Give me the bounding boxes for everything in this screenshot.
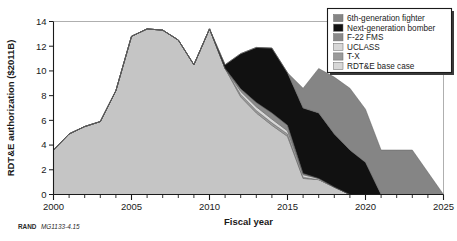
legend-swatch [334, 53, 344, 60]
legend-swatch [334, 24, 344, 31]
y-axis-title: RDT&E authorization ($2011B) [5, 40, 16, 177]
figure-container: 02468101214200020052010201520202025Fisca… [0, 0, 457, 241]
y-tick-label: 8 [41, 90, 46, 101]
x-axis-labels: 200020052010201520202025 [43, 201, 454, 212]
y-axis-ticks: 02468101214 [36, 16, 54, 200]
legend-label: F-22 FMS [347, 33, 384, 42]
credit-label: RAND [18, 223, 37, 230]
x-tick-label: 2010 [199, 201, 220, 212]
legend-swatch [334, 15, 344, 22]
x-tick-label: 2015 [277, 201, 298, 212]
credit-id: MG1133-4.15 [41, 223, 80, 230]
y-tick-label: 6 [41, 115, 46, 126]
x-tick-label: 2000 [43, 201, 64, 212]
legend-label: UCLASS [347, 43, 380, 52]
y-tick-label: 0 [41, 189, 46, 200]
legend-label: RDT&E base case [347, 62, 415, 71]
x-tick-label: 2025 [433, 201, 454, 212]
x-axis-minor-ticks [54, 195, 444, 201]
legend-swatch [334, 43, 344, 50]
legend-label: Next-generation bomber [347, 24, 436, 33]
stacked-area-chart: 02468101214200020052010201520202025Fisca… [0, 0, 457, 241]
y-tick-label: 10 [36, 65, 47, 76]
legend-label: T-X [347, 52, 360, 61]
y-tick-label: 4 [41, 139, 46, 150]
y-tick-label: 14 [36, 16, 47, 27]
x-tick-label: 2020 [355, 201, 376, 212]
legend-swatch [334, 63, 344, 70]
figure-credit: RANDMG1133-4.15 [18, 223, 80, 230]
legend-swatch [334, 34, 344, 41]
legend-label: 6th-generation fighter [347, 14, 425, 23]
y-tick-label: 12 [36, 41, 47, 52]
x-tick-label: 2005 [121, 201, 142, 212]
y-tick-label: 2 [41, 164, 46, 175]
x-axis-title: Fiscal year [224, 216, 273, 227]
legend: 6th-generation fighterNext-generation bo… [328, 9, 455, 76]
